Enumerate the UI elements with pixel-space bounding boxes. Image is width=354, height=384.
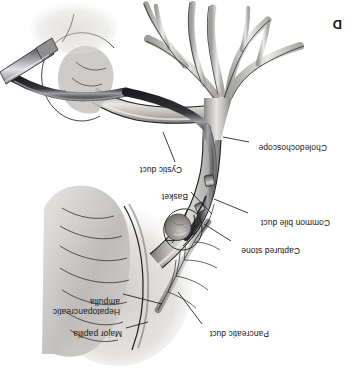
panel-letter-d: D	[333, 17, 342, 32]
illustration-figure: Major papilla Hepatopancreatic ampulla P…	[0, 0, 354, 384]
label-choledochoscope: Choledochoscope	[258, 142, 327, 152]
label-ampulla-line2: ampulla	[90, 297, 120, 307]
rotated-illustration-plate: Major papilla Hepatopancreatic ampulla P…	[0, 0, 354, 384]
label-ampulla-line1: Hepatopancreatic	[53, 307, 120, 317]
label-cystic-duct: Cystic duct	[140, 164, 182, 174]
label-hepatopancreatic-ampulla: Hepatopancreatic ampulla	[44, 297, 120, 316]
label-captured-stone: Captured stone	[241, 245, 300, 255]
label-major-papilla: Major papilla	[73, 328, 122, 338]
label-pancreatic-duct: Pancreatic duct	[210, 328, 269, 338]
label-common-bile-duct: Common bile duct	[261, 217, 330, 227]
label-basket: Basket	[162, 191, 188, 201]
